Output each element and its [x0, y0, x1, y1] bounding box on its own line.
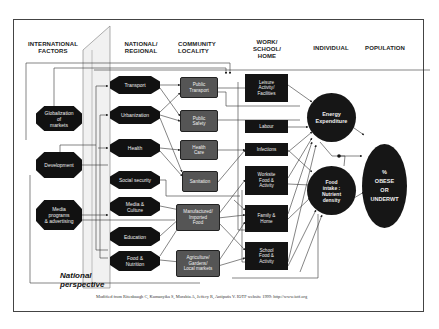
node-sanitation: Sanitation	[182, 171, 218, 192]
national-perspective-label: National perspective	[60, 271, 104, 289]
header-work-school-home: WORK/ SCHOOL/ HOME	[244, 39, 290, 60]
node-social-security: Social security	[110, 171, 160, 189]
node-education: Education	[110, 227, 160, 246]
node-transport: Transport	[110, 76, 160, 94]
node-worksite-food-activity: Worksite Food & Activity	[245, 166, 288, 195]
node-development: Development	[36, 152, 82, 178]
header-national-regional: NATIONAL/ REGIONAL	[116, 41, 166, 55]
node-family-home: Family & Home	[245, 205, 288, 232]
node-health-care: Health Care	[180, 140, 218, 160]
node-labour: Labour	[245, 120, 288, 133]
node-health: Health	[110, 139, 160, 157]
node-urbanization: Urbanization	[110, 106, 160, 124]
node-media-programs-advertising: Media programs & advertising	[36, 200, 82, 230]
node-media-culture: Media & Culture	[110, 197, 160, 216]
node-public-safety: Public Safety	[180, 110, 218, 132]
node-food-nutrition: Food & Nutrition	[110, 251, 160, 271]
node-school-food-activity: School Food & Activity	[245, 242, 288, 270]
node-food-intake-nutrient-density: Food intake : Nutrient density	[307, 166, 356, 215]
node-infections: Infections	[245, 143, 288, 156]
node-globalization-of-markets: Globalization of markets	[36, 106, 82, 131]
node-manufactured-imported-food: Manufactured/ Imported Food	[176, 204, 220, 231]
header-population: POPULATION	[358, 45, 412, 52]
header-individual: INDIVIDUAL	[306, 45, 356, 52]
header-community-locality: COMMUNITY LOCALITY	[172, 41, 234, 55]
node-percent-obese-or-underweight: % OBESE OR UNDERWT	[362, 144, 407, 228]
node-leisure-activity-facilities: Leisure Activity/ Facilities	[245, 74, 288, 102]
node-energy-expenditure: Energy Expenditure	[307, 93, 356, 142]
header-international-factors: INTERNATIONAL FACTORS	[18, 41, 88, 55]
source-caption: Modified from Ritenbaugh C, Kumanyika S,…	[96, 294, 307, 299]
node-public-transport: Public Transport	[180, 77, 218, 98]
node-agriculture-gardens-local-markets: Agriculture/ Gardens/ Local markets	[176, 250, 220, 277]
